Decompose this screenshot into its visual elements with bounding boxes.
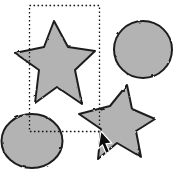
ellipse-shape-bottom-left[interactable] xyxy=(2,114,63,168)
ellipse-shape-top-right[interactable] xyxy=(114,21,172,78)
drawing-canvas[interactable] xyxy=(0,0,176,171)
drawing-scene xyxy=(0,0,176,171)
